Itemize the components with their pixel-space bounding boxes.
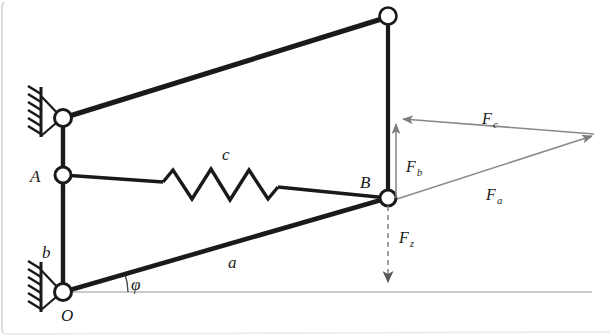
joint-a-circle [55, 167, 71, 183]
angle-phi-arc [125, 274, 128, 292]
link-bottom-bar-a [63, 198, 388, 292]
label-force-b: F b [405, 158, 422, 178]
spring-element [63, 169, 388, 200]
force-vector-fc [403, 119, 594, 134]
label-force-a: F a [485, 186, 502, 206]
label-joint-o: O [61, 306, 73, 325]
pivot-bottom-left-o [55, 284, 72, 301]
label-force-c: F c [481, 110, 498, 130]
label-force-a-sub: a [497, 195, 502, 206]
label-joint-b: B [360, 173, 371, 192]
label-link-a: a [228, 253, 237, 272]
label-force-z-main: F [398, 229, 409, 246]
figure-container: A b O a c φ B F c F b F a F z [0, 0, 614, 336]
label-force-c-main: F [481, 110, 492, 127]
label-force-b-sub: b [417, 167, 422, 178]
joint-b-circle [380, 190, 396, 206]
label-force-z: F z [398, 229, 414, 249]
label-angle-phi: φ [131, 275, 140, 294]
label-spring-c: c [222, 145, 230, 164]
label-joint-a: A [29, 167, 41, 186]
label-force-b-main: F [405, 158, 416, 175]
label-force-a-main: F [485, 186, 496, 203]
label-link-b: b [42, 243, 51, 262]
joint-top-right-circle [380, 8, 397, 25]
linkage-diagram: A b O a c φ B F c F b F a F z [0, 0, 614, 336]
label-force-z-sub: z [409, 238, 414, 249]
link-top-bar [63, 17, 388, 118]
label-force-c-sub: c [493, 119, 498, 130]
pivot-top-left [55, 110, 72, 127]
